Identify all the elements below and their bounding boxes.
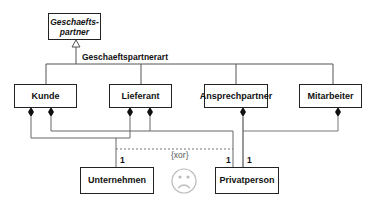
- multiplicity-unternehmen: 1: [120, 155, 125, 165]
- class-name: Lieferant: [121, 91, 159, 102]
- class-ansprechpartner[interactable]: Ansprechpartner: [204, 84, 268, 108]
- frown-face-icon: [172, 169, 196, 193]
- generalization-label: Geschaeftspartnerart: [82, 52, 168, 62]
- multiplicity-privatperson-left: 1: [226, 155, 231, 165]
- class-name: Ansprechpartner: [200, 91, 273, 102]
- class-name-line2: partner: [60, 27, 89, 37]
- multiplicity-privatperson-right: 1: [247, 155, 252, 165]
- class-name: Kunde: [32, 91, 60, 102]
- class-privatperson[interactable]: Privatperson: [215, 167, 279, 194]
- class-kunde[interactable]: Kunde: [14, 84, 77, 108]
- composition-diamonds: [28, 107, 341, 117]
- class-geschaeftspartner[interactable]: Geschaefts- partner: [48, 13, 101, 40]
- class-lieferant[interactable]: Lieferant: [109, 84, 172, 108]
- generalization-triangle-icon: [72, 40, 80, 47]
- xor-constraint: {xor}: [171, 150, 189, 160]
- class-mitarbeiter[interactable]: Mitarbeiter: [299, 84, 362, 108]
- class-unternehmen[interactable]: Unternehmen: [80, 167, 154, 194]
- class-name: Privatperson: [219, 175, 274, 186]
- class-name: Unternehmen: [88, 175, 146, 186]
- class-name-line1: Geschaefts-: [50, 17, 99, 27]
- class-name: Mitarbeiter: [307, 91, 353, 102]
